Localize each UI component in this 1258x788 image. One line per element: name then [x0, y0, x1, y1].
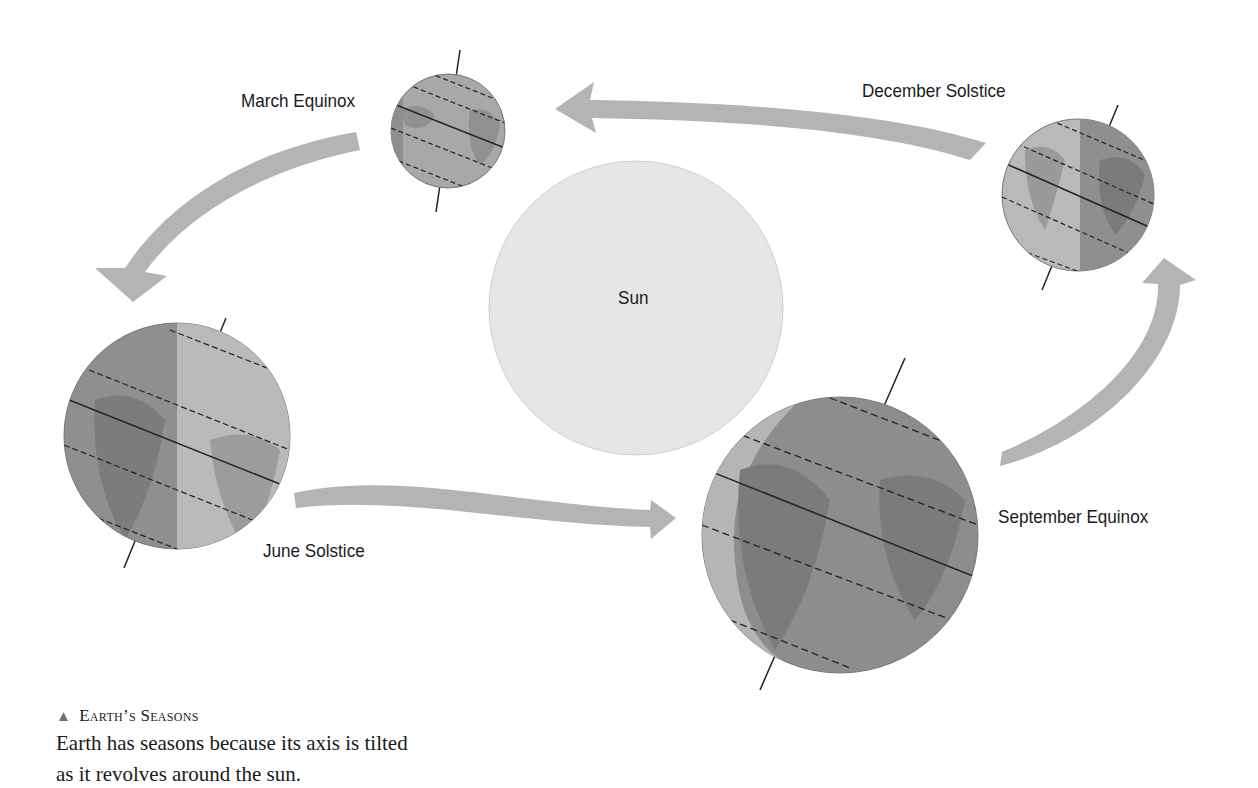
orbit-arrow-june-to-september	[294, 485, 676, 539]
caption-body: Earth has seasons because its axis is ti…	[56, 728, 416, 788]
orbit-arrow-september-to-december	[1000, 258, 1196, 466]
caption-title-text: Earth’s Seasons	[79, 706, 199, 725]
label-sun: Sun	[618, 287, 648, 309]
earth-june-solstice	[64, 318, 292, 568]
earth-december-solstice	[1002, 105, 1160, 300]
earth-seasons-diagram: March Equinox December Solstice June Sol…	[0, 0, 1258, 788]
label-march-equinox: March Equinox	[241, 90, 355, 112]
earth-march-equinox	[391, 50, 505, 212]
label-june-solstice: June Solstice	[263, 540, 365, 562]
orbit-arrow-march-to-june	[95, 132, 360, 302]
label-september-equinox: September Equinox	[998, 506, 1148, 528]
label-december-solstice: December Solstice	[862, 80, 1006, 102]
triangle-marker-icon: ▲	[56, 708, 71, 724]
caption-title: ▲Earth’s Seasons	[56, 706, 199, 726]
